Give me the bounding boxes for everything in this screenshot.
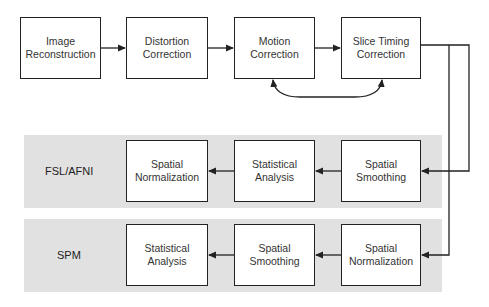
connector-slice-to-spm-path (422, 45, 449, 255)
connectors (0, 0, 489, 307)
curved-bidirectional-arrow (273, 80, 382, 97)
connector-slice-to-fsl (421, 45, 469, 171)
